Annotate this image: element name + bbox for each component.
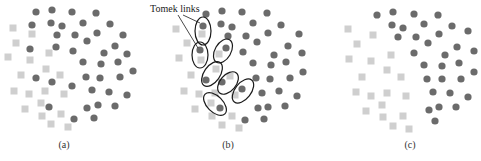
majority-circle-point	[267, 61, 274, 68]
panels-layer: (a)(b)(c)	[5, 6, 478, 151]
majority-circle-point	[97, 60, 104, 67]
minority-square-point	[48, 121, 55, 128]
majority-circle-point	[238, 85, 245, 92]
minority-square-point	[208, 100, 215, 107]
majority-circle-point	[105, 88, 112, 95]
majority-circle-point	[455, 59, 462, 66]
majority-circle-point	[438, 75, 445, 82]
majority-circle-point	[270, 51, 277, 58]
majority-circle-point	[111, 42, 118, 49]
minority-square-point	[198, 57, 205, 64]
minority-square-point	[219, 122, 226, 129]
minority-square-point	[22, 106, 29, 113]
majority-circle-point	[446, 89, 453, 96]
majority-circle-point	[111, 102, 118, 109]
majority-circle-point	[106, 20, 113, 27]
majority-circle-point	[423, 75, 430, 82]
minority-square-point	[390, 123, 397, 130]
majority-circle-point	[70, 115, 77, 122]
majority-circle-point	[258, 89, 265, 96]
minority-square-point	[354, 41, 361, 48]
majority-circle-point	[88, 86, 95, 93]
majority-circle-point	[222, 44, 229, 51]
minority-square-point	[368, 93, 375, 100]
panel-label-b: (b)	[222, 139, 234, 151]
majority-circle-point	[26, 45, 33, 52]
majority-circle-point	[388, 21, 395, 28]
majority-circle-point	[123, 50, 130, 57]
majority-circle-point	[293, 92, 300, 99]
minority-square-point	[29, 31, 36, 38]
majority-circle-point	[435, 103, 442, 110]
minority-square-point	[216, 51, 223, 58]
minority-square-point	[359, 74, 366, 81]
majority-circle-point	[410, 49, 417, 56]
minority-square-point	[184, 40, 191, 47]
majority-circle-point	[69, 47, 76, 54]
majority-circle-point	[264, 103, 271, 110]
majority-circle-point	[298, 49, 305, 56]
minority-square-point	[11, 88, 18, 95]
majority-circle-point	[90, 114, 97, 121]
annotation-pointer-line	[183, 15, 200, 23]
majority-circle-point	[114, 58, 121, 65]
majority-circle-point	[47, 19, 54, 26]
majority-circle-point	[28, 21, 35, 28]
majority-circle-point	[68, 82, 75, 89]
majority-circle-point	[410, 10, 417, 17]
majority-circle-point	[253, 38, 260, 45]
majority-circle-point	[452, 103, 459, 110]
majority-circle-point	[299, 68, 306, 75]
majority-circle-point	[438, 62, 445, 69]
majority-circle-point	[260, 115, 267, 122]
majority-circle-point	[266, 75, 273, 82]
minority-square-point	[345, 26, 352, 33]
majority-circle-point	[45, 103, 52, 110]
majority-circle-point	[252, 74, 259, 81]
minority-square-point	[236, 125, 243, 132]
majority-circle-point	[241, 116, 248, 123]
minority-square-point	[38, 100, 45, 107]
majority-circle-point	[429, 88, 436, 95]
minority-square-point	[188, 72, 195, 79]
scatter-diagram: (a)(b)(c) Tomek links	[0, 0, 481, 161]
majority-circle-point	[373, 11, 380, 18]
majority-circle-point	[263, 9, 270, 16]
minority-square-point	[368, 58, 375, 65]
majority-circle-point	[216, 104, 223, 111]
minority-square-point	[398, 74, 405, 81]
majority-circle-point	[96, 74, 103, 81]
minority-square-point	[363, 108, 370, 115]
majority-circle-point	[464, 27, 471, 34]
majority-circle-point	[425, 106, 432, 113]
minority-square-point	[353, 89, 360, 96]
majority-circle-point	[441, 51, 448, 58]
majority-circle-point	[48, 6, 55, 13]
minority-square-point	[27, 57, 34, 64]
majority-circle-point	[93, 29, 100, 36]
minority-square-point	[181, 88, 188, 95]
panel-a: (a)	[5, 6, 137, 151]
majority-circle-point	[224, 32, 231, 39]
majority-circle-point	[448, 22, 455, 29]
majority-circle-point	[239, 48, 246, 55]
minority-square-point	[406, 126, 413, 133]
minority-square-point	[57, 72, 64, 79]
minority-square-point	[42, 88, 49, 95]
majority-circle-point	[228, 23, 235, 30]
minority-square-point	[199, 31, 206, 38]
minority-square-point	[379, 102, 386, 109]
majority-circle-point	[249, 19, 256, 26]
majority-circle-point	[119, 31, 126, 38]
majority-circle-point	[295, 30, 302, 37]
tomek-links-figure: (a)(b)(c) Tomek links	[0, 0, 481, 161]
minority-square-point	[192, 106, 199, 113]
minority-square-point	[388, 52, 395, 59]
minority-square-point	[176, 55, 183, 62]
minority-square-point	[370, 32, 377, 39]
majority-circle-point	[394, 33, 401, 40]
majority-circle-point	[32, 8, 39, 15]
majority-circle-point	[281, 102, 288, 109]
majority-circle-point	[464, 93, 471, 100]
majority-circle-point	[264, 29, 271, 36]
